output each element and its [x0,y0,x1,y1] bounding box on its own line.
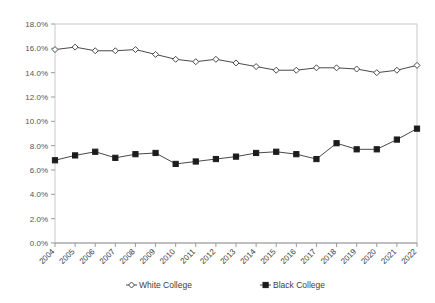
y-tick-label: 4.0% [30,190,48,199]
chart-container: 0.0%2.0%4.0%6.0%8.0%10.0%12.0%14.0%16.0%… [0,0,435,303]
data-point [394,137,399,142]
data-point [153,150,158,155]
data-point [233,154,238,159]
line-chart: 0.0%2.0%4.0%6.0%8.0%10.0%12.0%14.0%16.0%… [0,0,435,303]
y-tick-label: 8.0% [30,142,48,151]
y-tick-label: 12.0% [25,93,48,102]
y-tick-label: 10.0% [25,117,48,126]
data-point [354,147,359,152]
data-point [93,149,98,154]
y-tick-label: 18.0% [25,20,48,29]
data-point [414,126,419,131]
data-point [52,158,57,163]
data-point [294,152,299,157]
y-tick-label: 2.0% [30,215,48,224]
y-tick-label: 14.0% [25,69,48,78]
data-point [254,150,259,155]
legend-label: Black College [273,280,325,290]
data-point [314,156,319,161]
data-point [193,159,198,164]
data-point [374,147,379,152]
data-point [274,149,279,154]
y-tick-label: 6.0% [30,166,48,175]
data-point [213,156,218,161]
data-point [133,152,138,157]
y-tick-label: 16.0% [25,44,48,53]
data-point [113,155,118,160]
y-tick-label: 0.0% [30,239,48,248]
legend-label: White College [139,280,192,290]
data-point [73,153,78,158]
data-point [173,161,178,166]
data-point [334,141,339,146]
